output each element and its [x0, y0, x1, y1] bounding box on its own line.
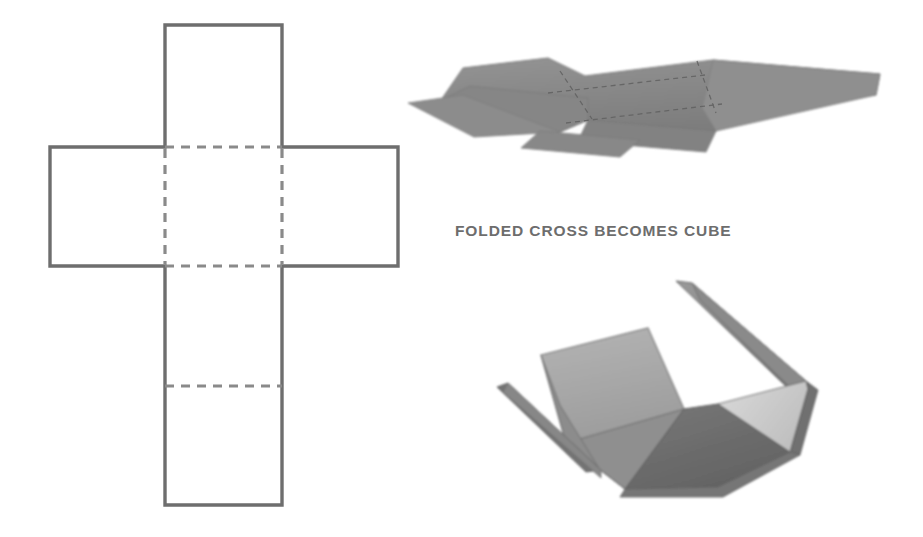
box-upper-flap-inner — [692, 283, 806, 397]
figure-caption: FOLDED CROSS BECOMES CUBE — [455, 222, 815, 240]
figure-root: FOLDED CROSS BECOMES CUBE — [0, 0, 923, 537]
partially-folded-box — [0, 0, 923, 537]
